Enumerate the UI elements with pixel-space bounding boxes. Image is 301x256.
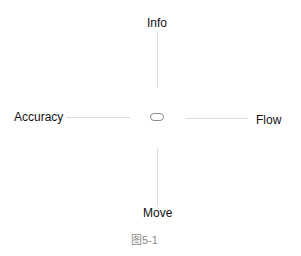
figure-caption: 图5-1 [131,234,158,246]
connector-left [66,117,130,118]
label-accuracy: Accuracy [14,111,63,124]
label-info: Info [147,17,167,30]
center-pill-icon [150,113,164,121]
connector-bottom [157,148,158,206]
connector-right [186,118,248,119]
label-move: Move [143,207,172,220]
connector-top [157,32,158,88]
label-flow: Flow [256,114,281,127]
